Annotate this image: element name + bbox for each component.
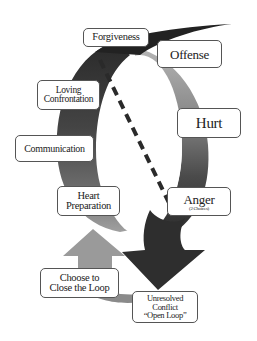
- node-heart-preparation-line2: Preparation: [66, 201, 111, 212]
- node-loving-confrontation-line2: Confrontation: [44, 95, 93, 105]
- node-communication: Communication: [15, 135, 94, 162]
- node-choose-to-close-line2: Close the Loop: [50, 283, 110, 294]
- node-forgiveness: Forgiveness: [83, 28, 149, 47]
- up-arrow: [63, 229, 125, 272]
- node-anger-sublabel: (2 Choices): [189, 206, 209, 211]
- conflict-cycle-diagram: Forgiveness Offense Loving Confrontation…: [0, 0, 257, 341]
- node-communication-label: Communication: [24, 144, 85, 154]
- node-offense: Offense: [157, 40, 222, 68]
- node-loving-confrontation: Loving Confrontation: [37, 80, 100, 110]
- node-heart-preparation: Heart Preparation: [57, 186, 120, 216]
- node-offense-label: Offense: [170, 48, 209, 61]
- node-unresolved-conflict-line3: “Open Loop”: [144, 311, 187, 320]
- node-unresolved-conflict: Unresolved Conflict “Open Loop”: [132, 291, 198, 323]
- node-anger-label: Anger: [184, 193, 215, 206]
- node-forgiveness-label: Forgiveness: [92, 32, 139, 43]
- node-hurt: Hurt: [177, 108, 241, 138]
- node-anger: Anger (2 Choices): [167, 187, 231, 216]
- node-choose-to-close-loop: Choose to Close the Loop: [40, 268, 119, 298]
- node-hurt-label: Hurt: [196, 116, 222, 131]
